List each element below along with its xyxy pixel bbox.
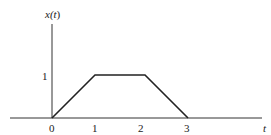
- x-tick-label-0: 0: [49, 122, 55, 134]
- x-tick-label-2: 2: [138, 122, 144, 134]
- signal-curve: [52, 75, 188, 118]
- signal-plot: x(t) 1 0 1 2 3 t: [0, 0, 271, 135]
- y-axis-label: x(t): [44, 8, 61, 21]
- y-tick-label-1: 1: [42, 70, 48, 82]
- x-axis-label: t: [263, 122, 267, 134]
- x-tick-label-1: 1: [92, 122, 98, 134]
- x-tick-label-3: 3: [184, 122, 190, 134]
